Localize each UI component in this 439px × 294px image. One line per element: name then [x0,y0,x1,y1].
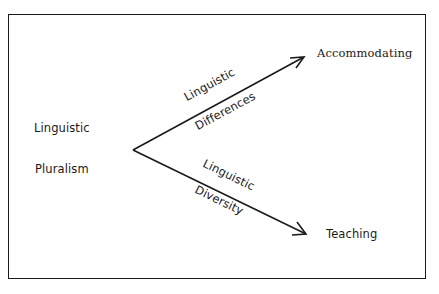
branch-arrows [0,0,439,294]
source-label-line1: Linguistic [34,123,90,135]
target-accommodating: Accommodating [317,48,412,60]
source-label-line2: Pluralism [35,164,89,176]
target-teaching: Teaching [326,229,377,241]
